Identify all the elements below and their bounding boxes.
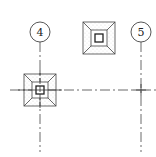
grid-bubble-4: 4 bbox=[30, 22, 50, 42]
grid-bubble-5: 5 bbox=[131, 22, 151, 42]
grid-label-5: 5 bbox=[138, 26, 145, 39]
grid-label-4: 4 bbox=[37, 26, 44, 39]
grid-intersection-5 bbox=[133, 84, 149, 96]
foundation-plan-drawing: 4 5 bbox=[0, 0, 156, 157]
footing-top bbox=[83, 22, 115, 54]
footing-grid-4 bbox=[18, 70, 62, 110]
